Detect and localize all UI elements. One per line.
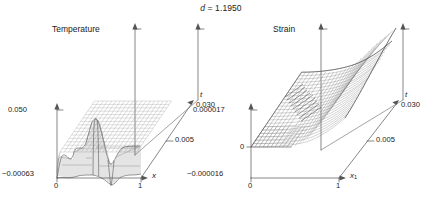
temperature-z-axis-arrow-far — [195, 23, 200, 30]
strain-mesh-surface — [251, 28, 396, 147]
strain-x-tick-end-label: 1 — [336, 182, 340, 190]
panel-strain-title: Strain — [273, 24, 295, 34]
temperature-z-max-label: 0.050 — [8, 106, 27, 114]
strain-t-axis-label: t — [405, 91, 407, 99]
temperature-x-axis-label: x — [152, 172, 156, 180]
strain-ramp-columns — [251, 28, 396, 147]
strain-x-tick-start-label: 0 — [248, 182, 252, 190]
strain-ramp-rows — [251, 41, 392, 147]
strain-z-axis-arrow-near — [318, 23, 323, 30]
temperature-t-mid-label: 0.005 — [175, 136, 194, 144]
temperature-z-scale-arrow — [54, 103, 59, 110]
temperature-t-axis-label: t — [200, 91, 202, 99]
temperature-z-axis-arrow-near — [132, 23, 137, 30]
strain-z-zero-label: 0 — [240, 143, 244, 151]
figure-root: d = 1.1950 Temperature — [0, 0, 442, 200]
strain-t-mid-label: 0.005 — [376, 136, 395, 144]
temperature-x-tick-end-label: 1 — [138, 182, 142, 190]
temperature-z-min-label: −0.00063 — [2, 170, 34, 178]
panel-strain: Strain — [221, 0, 442, 200]
strain-crest-outline — [251, 28, 396, 147]
strain-t-max-label: 0.030 — [401, 101, 420, 109]
temperature-plateau-mesh — [58, 101, 172, 152]
strain-z-axis-arrow-far — [400, 23, 405, 30]
strain-z-min-label: −0.000016 — [187, 170, 223, 178]
strain-z-max-label: 0.000017 — [193, 106, 225, 114]
strain-x-axis-label: x1 — [350, 172, 357, 181]
temperature-x-tick-start-label: 0 — [54, 182, 58, 190]
panel-temperature-title: Temperature — [52, 24, 100, 34]
strain-z-scale-arrow — [248, 103, 253, 110]
